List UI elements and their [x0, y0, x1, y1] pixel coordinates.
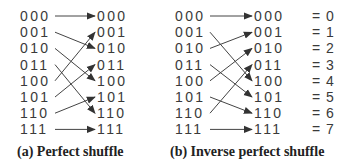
- arrow-line: [210, 65, 252, 97]
- output-label: 001: [97, 24, 128, 40]
- output-label: 111: [254, 121, 282, 137]
- arrow-line: [210, 97, 252, 113]
- output-label: 011: [97, 57, 127, 73]
- output-label: 011: [254, 57, 284, 73]
- arrow-line: [210, 32, 252, 48]
- decimal-label: = 5: [312, 89, 335, 105]
- input-label: 000: [20, 8, 51, 24]
- input-label: 101: [20, 89, 51, 105]
- arrow-line: [55, 32, 95, 81]
- panel-a-caption: (a) Perfect shuffle: [17, 144, 124, 160]
- input-label: 011: [175, 57, 205, 73]
- output-label: 101: [97, 89, 128, 105]
- input-label: 001: [20, 24, 51, 40]
- input-label: 001: [175, 24, 206, 40]
- output-label: 000: [97, 8, 128, 24]
- output-label: 010: [254, 40, 285, 56]
- decimal-label: = 1: [312, 24, 335, 40]
- output-label: 001: [254, 24, 285, 40]
- output-label: 100: [254, 73, 285, 89]
- output-label: 100: [97, 73, 128, 89]
- input-label: 010: [20, 40, 51, 56]
- input-label: 110: [175, 105, 205, 121]
- input-label: 111: [175, 121, 203, 137]
- output-label: 101: [254, 89, 285, 105]
- arrow-line: [55, 97, 95, 113]
- arrow-line: [55, 65, 95, 97]
- panel-b-caption: (b) Inverse perfect shuffle: [170, 144, 324, 160]
- output-label: 110: [254, 105, 284, 121]
- input-label: 110: [20, 105, 50, 121]
- arrow-line: [55, 32, 95, 48]
- output-label: 111: [97, 121, 125, 137]
- decimal-label: = 0: [312, 8, 335, 24]
- arrow-line: [210, 48, 252, 80]
- input-label: 111: [20, 121, 48, 137]
- decimal-label: = 4: [312, 73, 335, 89]
- arrow-line: [210, 65, 252, 114]
- decimal-label: = 6: [312, 105, 335, 121]
- arrow-line: [55, 48, 95, 80]
- input-label: 011: [20, 57, 50, 73]
- input-label: 100: [175, 73, 206, 89]
- output-label: 110: [97, 105, 127, 121]
- decimal-label: = 3: [312, 57, 335, 73]
- arrow-line: [210, 32, 252, 81]
- arrow-line: [55, 65, 95, 114]
- input-label: 101: [175, 89, 206, 105]
- output-label: 000: [254, 8, 285, 24]
- output-label: 010: [97, 40, 128, 56]
- input-label: 010: [175, 40, 206, 56]
- input-label: 000: [175, 8, 206, 24]
- input-label: 100: [20, 73, 51, 89]
- decimal-label: = 2: [312, 40, 335, 56]
- perfect-shuffle-arrows: [55, 16, 95, 129]
- inverse-shuffle-arrows: [210, 16, 252, 129]
- decimal-label: = 7: [312, 121, 335, 137]
